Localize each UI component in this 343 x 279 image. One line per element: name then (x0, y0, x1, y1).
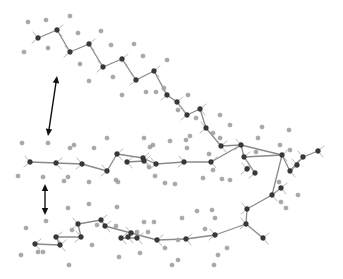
arrowhead-icon (46, 129, 52, 136)
hydrogen-atom (67, 263, 71, 267)
hydrogen-atom (165, 58, 169, 62)
carbon-atom (119, 236, 124, 241)
bond (82, 164, 107, 171)
carbon-atom (279, 186, 284, 191)
hydrogen-atom (135, 230, 139, 234)
bond (241, 145, 282, 155)
carbon-atom (154, 162, 159, 167)
bond (282, 155, 290, 171)
hydrogen-atom (46, 46, 50, 50)
carbon-atom (242, 155, 247, 160)
hydrogen-atom (66, 175, 70, 179)
hydrogen-atom (176, 238, 180, 242)
hydrogen-atom (212, 263, 216, 267)
hydrogen-atom (44, 219, 48, 223)
hydrogen-atom (216, 253, 220, 257)
carbon-atom (288, 169, 293, 174)
hydrogen-atom (95, 223, 99, 227)
hydrogen-atom (287, 128, 291, 132)
hydrogen-atom (201, 176, 205, 180)
hydrogen-atom (188, 134, 192, 138)
hydrogen-atom (260, 125, 264, 129)
hydrogen-atom (163, 181, 167, 185)
hydrogen-atom (26, 20, 30, 24)
hydrogen-atom (186, 93, 190, 97)
hydrogen-atom (163, 246, 167, 250)
spacing-arrow-lower (42, 184, 48, 215)
carbon-atom (126, 235, 131, 240)
hydrogen-atom (220, 177, 224, 181)
hydrogen-atom (207, 152, 211, 156)
hydrogen-atom (147, 165, 151, 169)
hydrogen-atom (180, 216, 184, 220)
hydrogen-atom (256, 136, 260, 140)
bond (246, 224, 263, 238)
hydrogen-atom (184, 138, 188, 142)
arrowhead-icon (53, 76, 59, 83)
carbon-atom (54, 235, 59, 240)
hydrogen-atom (142, 136, 146, 140)
bond (136, 71, 154, 80)
hydrogen-atom (99, 29, 103, 33)
carbon-atom (295, 163, 300, 168)
carbon-atom (175, 100, 180, 105)
spacing-arrow-layer (42, 76, 59, 215)
carbon-atom (115, 152, 120, 157)
carbon-atom (76, 222, 81, 227)
carbon-atom (245, 207, 250, 212)
hydrogen-atom (278, 143, 282, 147)
hydrogen-atom (185, 146, 189, 150)
hydrogen-atom (288, 148, 292, 152)
carbon-atom (54, 161, 59, 166)
hydrogen-atom (46, 141, 50, 145)
carbon-atom (184, 237, 189, 242)
bond (35, 244, 60, 245)
hydrogen-atom (41, 250, 45, 254)
carbon-atom (261, 236, 266, 241)
hydrogen-atom (195, 209, 199, 213)
carbon-atom (80, 162, 85, 167)
bond (107, 154, 117, 171)
bond (117, 154, 143, 158)
carbon-atom (129, 231, 134, 236)
hydrogen-atom (20, 141, 24, 145)
hydrogen-atom (87, 202, 91, 206)
hydrogen-atom (138, 251, 142, 255)
arrowhead-icon (42, 208, 48, 215)
hydrogen-atom (284, 206, 288, 210)
molecular-structure-diagram (0, 0, 343, 279)
carbon-atom (301, 155, 306, 160)
hydrogen-atom (24, 226, 28, 230)
carbon-atom (316, 149, 321, 154)
hydrogen-atom (132, 42, 136, 46)
hydrogen-atom (62, 179, 66, 183)
hydrogen-atom (154, 90, 158, 94)
hydrogen-atom (44, 18, 48, 22)
carbon-atom (87, 42, 92, 47)
hydrogen-atom (213, 216, 217, 220)
bond (244, 155, 282, 157)
carbon-atom (105, 169, 110, 174)
carbon-atom (134, 78, 139, 83)
hydrogen-atom (153, 174, 157, 178)
carbon-atom (55, 28, 60, 33)
hydrogen-atom (152, 220, 156, 224)
hydrogen-atom (16, 174, 20, 178)
carbon-atom (185, 113, 190, 118)
hydrogen-atom (176, 108, 180, 112)
hydrogen-atom (210, 208, 214, 212)
carbon-atom (219, 144, 224, 149)
hydrogen-atom (211, 168, 215, 172)
hydrogen-atom (228, 123, 232, 127)
hydrogen-atom (68, 14, 72, 18)
bond (103, 59, 122, 67)
hydrogen-atom (218, 136, 222, 140)
bond (200, 109, 206, 128)
carbon-atom (28, 160, 33, 165)
hydrogen-atom (66, 206, 70, 210)
hydrogen-atom (76, 31, 80, 35)
carbon-atom (204, 126, 209, 131)
hydrogen-atom (151, 143, 155, 147)
hydrogen-atom-layer (16, 14, 300, 267)
bond (30, 162, 56, 163)
